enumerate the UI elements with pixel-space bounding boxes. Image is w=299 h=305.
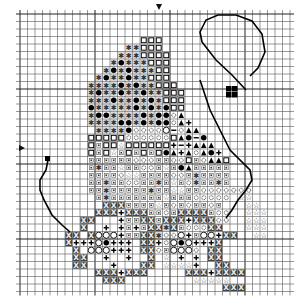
stitch-dark-x-box-icon: X [95,208,102,217]
stitch-dot-square-icon [217,203,221,207]
svg-text:X: X [126,268,132,277]
stitch-plus-icon [209,270,214,275]
stitch-small-open-circle-icon [157,136,161,140]
stitch-filled-circle-icon [126,67,132,73]
stitch-small-open-circle-icon [172,158,176,162]
svg-text:X: X [111,276,117,285]
stitch-open-square-icon [164,53,169,58]
spout-path [40,160,70,232]
stitch-open-square-icon [164,98,169,103]
stitch-small-open-circle-icon [134,158,138,162]
svg-text:X: X [103,208,109,217]
center-marker-left-icon [19,145,25,151]
stitch-dark-x-box-icon: X [118,201,125,210]
stitch-filled-circle-icon [118,120,124,126]
stitch-large-open-circle-icon [178,247,184,253]
svg-text:X: X [208,253,214,262]
svg-text:X: X [118,201,124,210]
stitch-open-square-icon [104,143,109,148]
stitch-filled-circle-icon [148,97,154,103]
stitch-dot-square-icon [127,188,131,192]
stitch-asterisk-gray-icon: ✱ [156,179,163,187]
stitch-dot-square-icon [127,203,131,207]
stitch-asterisk-gray-icon: ✱ [111,127,118,135]
svg-text:X: X [238,283,244,292]
stitch-dot-square-icon [157,173,161,177]
stitch-asterisk-gray-icon: ✱ [148,89,155,97]
stitch-large-open-circle-icon [171,240,177,246]
stitch-open-square-icon [141,53,146,58]
stitch-dot-square-icon [89,173,93,177]
stitch-star-icon: ☆ [170,261,177,270]
stitch-dot-square-icon [187,173,191,177]
stitch-dark-x-box-icon: X [238,268,245,277]
stitch-filled-circle-icon [111,67,117,73]
stitch-plus-icon [186,120,191,125]
stitch-asterisk-gray-icon: ✱ [96,164,103,172]
stitch-dot-square-icon [127,196,131,200]
stitch-asterisk-gray-icon: ✱ [118,52,125,60]
stitch-asterisk-gray-icon: ✱ [126,112,133,120]
svg-text:X: X [81,261,87,270]
stitch-dot-square-icon [202,166,206,170]
stitch-large-open-circle-icon [96,240,102,246]
stitch-open-square-icon [149,53,154,58]
svg-text:☆: ☆ [193,276,200,285]
stitch-filled-triangle-icon [194,143,200,149]
stitch-small-open-circle-icon [202,226,206,230]
stitch-dark-x-box-icon: X [73,261,80,270]
svg-text:X: X [96,268,102,277]
stitch-dark-x-box-icon: X [170,223,177,232]
svg-text:✱: ✱ [163,224,169,232]
stitch-asterisk-gray-icon: ✱ [148,67,155,75]
stitch-small-open-circle-icon [149,166,153,170]
stitch-dot-square-icon [202,203,206,207]
stitch-open-square-icon [141,143,146,148]
svg-text:X: X [103,276,109,285]
svg-text:X: X [216,223,222,232]
svg-text:✱: ✱ [103,127,109,135]
stitch-small-open-circle-icon [172,121,176,125]
stitch-plus-icon [179,150,184,155]
svg-text:X: X [141,216,147,225]
stitch-star-icon: ☆ [178,261,185,270]
stitch-open-square-icon [164,75,169,80]
stitch-dot-square-icon [179,196,183,200]
stitch-asterisk-gray-icon: ✱ [111,59,118,67]
stitch-asterisk-gray-icon: ✱ [118,112,125,120]
stitch-open-square-icon [164,68,169,73]
svg-text:X: X [96,208,102,217]
stitch-small-open-circle-icon [187,226,191,230]
stitch-filled-circle-icon [163,105,169,111]
stitch-filled-circle-icon [178,240,184,246]
stitch-small-open-circle-icon [142,128,146,132]
stitch-plus-icon [209,240,214,245]
stitch-dark-x-box-icon: X [148,261,155,270]
svg-text:☆: ☆ [163,261,170,270]
svg-text:✱: ✱ [111,127,117,135]
stitch-plus-icon [171,143,176,148]
stitch-dot-square-icon [202,181,206,185]
stitch-filled-circle-icon [208,150,214,156]
stitch-filled-circle-icon [103,112,109,118]
stitch-star-icon: ☆ [163,193,170,202]
stitch-asterisk-gray-icon: ✱ [133,89,140,97]
stitch-plus-icon [119,270,124,275]
stitch-dark-x-box-icon: X [178,216,185,225]
stitch-filled-triangle-icon [179,120,185,126]
stitch-open-square-icon [156,68,161,73]
stitch-dot-square-icon [224,173,228,177]
stitch-open-square-icon [156,83,161,88]
stitch-dot-square-icon [142,188,146,192]
svg-text:X: X [223,283,229,292]
stitch-asterisk-gray-icon: ✱ [148,187,155,195]
stitch-open-square-icon [156,143,161,148]
stitch-filled-circle-icon [156,112,162,118]
stitch-star-icon: ☆ [245,223,252,232]
stitch-dark-x-box-icon: X [140,246,147,255]
stitch-open-square-icon [224,158,229,163]
stitch-large-open-circle-icon [103,247,109,253]
stitch-open-square-icon [134,143,139,148]
svg-text:☆: ☆ [178,186,185,195]
stitch-open-square-icon [149,38,154,43]
